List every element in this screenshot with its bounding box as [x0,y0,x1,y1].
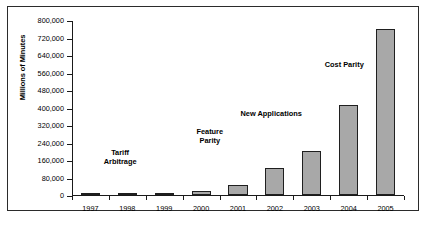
bar [155,193,174,195]
x-axis-tick-mark [109,196,110,200]
bar [265,168,284,195]
y-axis-tick-label: 80,000 [42,174,64,183]
bar [118,193,137,195]
y-axis-tick-mark [67,91,72,92]
chart-annotation: Cost Parity [325,60,364,69]
y-axis-tick-label: 320,000 [38,121,64,130]
bar [339,105,358,195]
bar [376,29,395,195]
y-axis-tick-label: 560,000 [38,69,64,78]
y-axis-title: Millions of Minutes [18,8,27,128]
y-axis-tick-mark [67,161,72,162]
x-axis-tick-label: 2000 [183,204,220,213]
annotation-line: New Applications [241,109,302,118]
bar [192,191,211,195]
y-axis-tick-label: 240,000 [38,139,64,148]
y-axis-tick-label: 720,000 [38,34,64,43]
x-axis-tick-label: 2003 [293,204,330,213]
x-axis-tick-mark [72,196,73,200]
x-axis-tick-mark [367,196,368,200]
x-axis-tick-mark [220,196,221,200]
x-axis-line [72,195,404,196]
y-axis-line [72,21,73,196]
bar [81,193,100,195]
y-axis-tick-mark [67,21,72,22]
y-axis-tick-mark [67,74,72,75]
x-axis-tick-mark [293,196,294,200]
bar [302,151,321,195]
y-axis-tick-mark [67,39,72,40]
x-axis-tick-label: 2002 [256,204,293,213]
y-axis-tick-label: 400,000 [38,104,64,113]
chart-annotation: FeatureParity [196,127,223,145]
x-axis-tick-mark [404,196,405,200]
bar [228,185,247,195]
annotation-line: Feature [196,127,223,136]
x-axis-tick-label: 2005 [367,204,404,213]
annotation-line: Tariff [104,148,137,157]
plot-area: 080,000160,000240,000320,000400,000480,0… [72,21,404,196]
x-axis-tick-label: 2004 [330,204,367,213]
y-axis-tick-label: 800,000 [38,16,64,25]
y-axis-tick-label: 640,000 [38,51,64,60]
y-axis-tick-label: 0 [60,191,64,200]
x-axis-tick-mark [330,196,331,200]
x-axis-tick-label: 1997 [72,204,109,213]
annotation-line: Cost Parity [325,60,364,69]
y-axis-tick-label: 160,000 [38,156,64,165]
x-axis-tick-label: 2001 [220,204,257,213]
y-axis-tick-mark [67,126,72,127]
y-axis-tick-mark [67,109,72,110]
x-axis-tick-label: 1998 [109,204,146,213]
annotation-line: Parity [196,136,223,145]
chart-annotation: New Applications [241,109,302,118]
y-axis-tick-mark [67,144,72,145]
y-axis-tick-mark [67,179,72,180]
y-axis-tick-label: 480,000 [38,86,64,95]
chart-annotation: TariffArbitrage [104,148,137,166]
x-axis-tick-mark [146,196,147,200]
x-axis-tick-label: 1999 [146,204,183,213]
x-axis-tick-mark [256,196,257,200]
chart-frame: Millions of Minutes 080,000160,000240,00… [7,6,419,211]
x-axis-tick-mark [183,196,184,200]
y-axis-tick-mark [67,56,72,57]
annotation-line: Arbitrage [104,157,137,166]
